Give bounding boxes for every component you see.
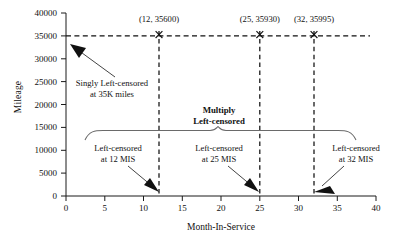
y-tick-label-40000: 40000 <box>13 8 57 18</box>
annotation-multiply-censored: Multiply Left-censored <box>176 105 262 127</box>
x-axis-title: Month-In-Service <box>66 222 376 232</box>
y-tick-label-10000: 10000 <box>13 145 57 155</box>
x-tick-label-30: 30 <box>284 203 314 213</box>
x-tick-label-20: 20 <box>206 203 236 213</box>
annotation-multiply-line2: Left-censored <box>176 116 262 127</box>
annotation-lc32-line1: Left-censored <box>318 143 394 154</box>
y-tick-label-35000: 35000 <box>13 31 57 41</box>
chart-figure: Mileage Month-In-Service 0 5000 10000 15… <box>0 0 398 243</box>
y-tick-label-20000: 20000 <box>13 100 57 110</box>
annotation-singly-line2: at 35K miles <box>63 89 161 100</box>
annotation-lc32: Left-censored at 32 MIS <box>318 143 394 165</box>
y-tick-marks <box>61 13 66 196</box>
annotation-singly-censored: Singly Left-censored at 35K miles <box>63 78 161 100</box>
annotation-lc25-line1: Left-censored <box>181 143 257 154</box>
x-tick-label-15: 15 <box>167 203 197 213</box>
annotation-multiply-line1: Multiply <box>176 105 262 116</box>
x-tick-label-35: 35 <box>322 203 352 213</box>
y-tick-label-30000: 30000 <box>13 54 57 64</box>
x-tick-marks <box>66 196 376 201</box>
point-label-0: (12, 35600) <box>114 14 204 24</box>
x-tick-label-40: 40 <box>361 203 391 213</box>
annotation-lc12-line2: at 12 MIS <box>80 154 156 165</box>
lc12-arrow <box>128 166 159 192</box>
data-point-markers <box>156 31 318 38</box>
y-tick-label-5000: 5000 <box>13 168 57 178</box>
singly-censored-arrow <box>70 44 115 77</box>
x-tick-label-25: 25 <box>245 203 275 213</box>
y-tick-label-15000: 15000 <box>13 122 57 132</box>
annotation-lc25-line2: at 25 MIS <box>181 154 257 165</box>
annotation-lc12-line1: Left-censored <box>80 143 156 154</box>
y-tick-label-25000: 25000 <box>13 77 57 87</box>
x-tick-label-10: 10 <box>129 203 159 213</box>
annotation-lc25: Left-censored at 25 MIS <box>181 143 257 165</box>
multiply-censored-brace <box>85 127 356 141</box>
lc32-arrow <box>314 166 344 194</box>
lc25-arrow <box>228 166 259 192</box>
x-tick-label-5: 5 <box>90 203 120 213</box>
point-label-2: (32, 35995) <box>269 14 359 24</box>
y-tick-label-0: 0 <box>13 191 57 201</box>
annotation-singly-line1: Singly Left-censored <box>63 78 161 89</box>
annotation-lc12: Left-censored at 12 MIS <box>80 143 156 165</box>
x-tick-label-0: 0 <box>51 203 81 213</box>
annotation-lc32-line2: at 32 MIS <box>318 154 394 165</box>
